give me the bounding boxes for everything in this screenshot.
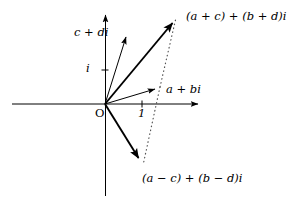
vector-a-plus-bi [105,89,155,104]
label-sum: (a + c) + (b + d)i [186,11,287,23]
label-c-plus-di: c + di [74,27,108,39]
complex-plane-figure: O 1 i c + di a + bi (a + c) + (b + d)i (… [0,0,292,216]
label-a-plus-bi: a + bi [166,84,201,96]
tick-label-i: i [86,63,90,75]
tick-label-one: 1 [138,108,145,120]
vector-difference [105,104,139,158]
origin-label: O [95,108,104,120]
dotted-line-to-difference [144,87,161,163]
label-difference: (a − c) + (b − d)i [142,173,243,185]
vector-sum [105,23,173,104]
